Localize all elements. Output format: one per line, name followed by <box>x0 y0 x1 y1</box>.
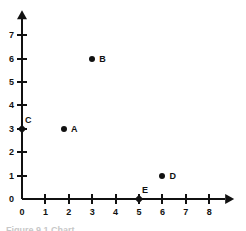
diamond-marker-icon <box>135 195 143 203</box>
x-axis-arrowhead <box>225 194 234 204</box>
data-point-label-b: B <box>99 54 106 63</box>
data-point-label-a: A <box>71 124 78 133</box>
diamond-marker-icon <box>18 125 26 133</box>
data-point-label-c: C <box>25 116 32 125</box>
x-axis-tick-label: 2 <box>66 208 71 217</box>
data-point-b[interactable] <box>89 56 95 62</box>
y-axis-tick-label: 3 <box>9 124 14 133</box>
x-axis-tick-label: 8 <box>207 208 212 217</box>
x-axis-tick-label: 0 <box>19 208 24 217</box>
y-axis-tick-label: 0 <box>9 195 14 204</box>
x-axis-tick-label: 1 <box>43 208 48 217</box>
scatter-plot-figure: 01234567801234567ABCDE Figure 9.1 Chart <box>0 0 246 231</box>
axis-lines <box>17 10 234 204</box>
axes-graphic <box>0 0 246 231</box>
x-axis-tick-label: 6 <box>160 208 165 217</box>
x-axis-tick-label: 5 <box>136 208 141 217</box>
x-axis-tick-label: 4 <box>113 208 118 217</box>
y-axis-arrowhead <box>17 10 27 19</box>
data-point-label-d: D <box>169 171 176 180</box>
x-axis-tick-label: 7 <box>183 208 188 217</box>
dot-marker-icon <box>61 126 67 132</box>
y-axis-tick-label: 7 <box>9 31 14 40</box>
x-axis-tick-label: 3 <box>90 208 95 217</box>
dot-marker-icon <box>159 173 165 179</box>
y-axis-tick-label: 1 <box>9 171 14 180</box>
data-point-label-e: E <box>142 186 148 195</box>
data-point-c[interactable] <box>19 126 25 132</box>
figure-caption: Figure 9.1 Chart <box>6 225 75 231</box>
y-axis-tick-label: 2 <box>9 148 14 157</box>
dot-marker-icon <box>89 56 95 62</box>
data-point-d[interactable] <box>159 173 165 179</box>
y-axis-tick-label: 5 <box>9 78 14 87</box>
data-point-a[interactable] <box>61 126 67 132</box>
data-point-e[interactable] <box>136 196 142 202</box>
y-axis-tick-label: 6 <box>9 54 14 63</box>
y-axis-tick-label: 4 <box>9 101 14 110</box>
